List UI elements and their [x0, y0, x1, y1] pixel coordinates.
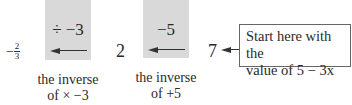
callout-arrow-icon — [221, 47, 239, 53]
inverse-label-line-2: of × −3 — [23, 88, 113, 104]
operation-box-divide: ÷ −3 — [45, 0, 91, 60]
operation-divide-label: ÷ −3 — [45, 20, 91, 40]
left-arrow-icon — [148, 47, 185, 53]
callout-line-1: Start here with the — [246, 28, 344, 62]
inverse-label-line-1: the inverse — [23, 72, 113, 88]
inverse-label-line-1: the inverse — [121, 70, 211, 86]
result-sign: − — [6, 44, 14, 60]
result-fraction: 2 3 — [14, 42, 20, 61]
inverse-label-line-2: of +5 — [121, 86, 211, 102]
callout-line-2: value of 5 − 3x — [246, 62, 344, 79]
left-arrow-icon — [50, 48, 87, 54]
middle-value: 2 — [116, 41, 125, 62]
operation-box-subtract: −5 — [143, 0, 189, 58]
start-callout: Start here with the value of 5 − 3x — [239, 24, 351, 67]
inverse-label-subtract: the inverse of +5 — [121, 70, 211, 102]
start-value: 7 — [208, 41, 217, 62]
operation-subtract-label: −5 — [143, 20, 189, 40]
fraction-numerator: 2 — [15, 42, 20, 51]
fraction-denominator: 3 — [15, 52, 20, 61]
result-value: − 2 3 — [6, 42, 20, 61]
inverse-label-divide: the inverse of × −3 — [23, 72, 113, 104]
